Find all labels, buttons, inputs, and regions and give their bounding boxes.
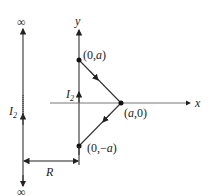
distance-label: R <box>45 165 54 179</box>
point-top <box>77 58 82 63</box>
point-top-label: (0,a) <box>83 48 106 62</box>
x-axis-label: x <box>194 96 201 110</box>
segment-right-to-bottom <box>79 103 121 146</box>
point-bottom-label: (0,−a) <box>87 141 117 155</box>
current-left-label: I2 <box>8 104 17 120</box>
arrow-bottom-segment <box>103 114 110 122</box>
arrow-top-segment <box>90 71 98 80</box>
point-right-label: (a,0) <box>124 106 147 120</box>
point-right <box>119 101 124 106</box>
infinity-top-label: ∞ <box>17 15 26 29</box>
infinity-bottom-label: ∞ <box>17 185 26 196</box>
current-axis-label: I2 <box>65 87 74 103</box>
segment-top-to-right <box>79 60 121 103</box>
y-axis-label: y <box>74 14 81 28</box>
diagram-canvas: ∞ ∞ y x (0,a) (a,0) (0,−a) I2 I2 R <box>0 0 210 196</box>
